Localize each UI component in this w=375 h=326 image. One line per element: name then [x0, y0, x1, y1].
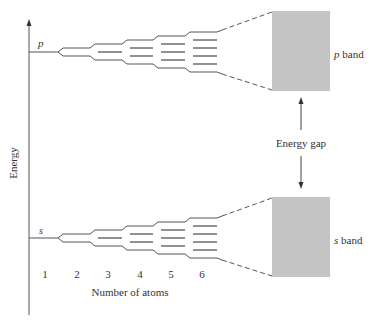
energy-axis: [27, 19, 32, 315]
s-band-label: s band: [334, 234, 363, 246]
p-orbital-label: p: [37, 37, 44, 49]
atom-count-6: 6: [199, 268, 205, 280]
s-level-splitting: [29, 216, 222, 260]
x-axis-label: Number of atoms: [92, 286, 169, 298]
atom-count-3: 3: [105, 268, 111, 280]
energy-axis-label: Energy: [7, 147, 19, 179]
s-band-block: [222, 198, 330, 276]
atom-count-labels: 123456: [42, 268, 205, 280]
atom-count-2: 2: [74, 268, 80, 280]
atom-count-4: 4: [137, 268, 143, 280]
s-orbital-label: s: [39, 225, 43, 236]
p-band-block: [222, 12, 330, 90]
energy-band-diagram: Energy p s p band s band Energy gap 1234…: [0, 0, 375, 326]
energy-gap-label: Energy gap: [276, 137, 327, 149]
atom-count-1: 1: [42, 268, 48, 280]
axis-arrow-icon: [27, 19, 32, 26]
atom-count-5: 5: [168, 268, 174, 280]
p-band-label: p band: [333, 48, 364, 60]
p-level-splitting: [29, 30, 222, 74]
